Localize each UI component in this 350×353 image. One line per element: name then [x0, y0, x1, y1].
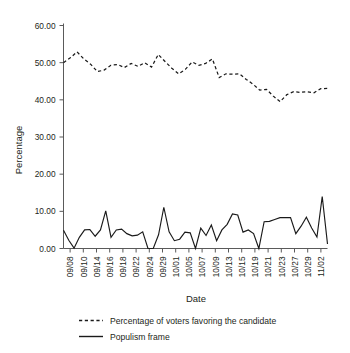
x-tick-label: 10/01 [171, 256, 181, 277]
series-line-percentage-of-voters [64, 52, 328, 102]
chart-legend: Percentage of voters favoring the candid… [79, 316, 276, 342]
x-tick-label: 10/05 [184, 256, 194, 277]
y-tick-label: 0.00 [39, 244, 56, 254]
line-chart: 0.0010.0020.0030.0040.0050.0060.00 09/08… [0, 0, 350, 353]
x-tick-label: 10/21 [263, 256, 273, 277]
x-tick-label: 11/02 [316, 256, 326, 277]
x-tick-label: 09/24 [145, 256, 155, 277]
x-tick-label: 10/23 [277, 256, 287, 277]
x-tick-label: 10/15 [237, 256, 247, 277]
y-tick-label: 20.00 [35, 169, 56, 179]
legend-label-populism-frame: Populism frame [110, 332, 170, 342]
y-axis-tick-labels: 0.0010.0020.0030.0040.0050.0060.00 [35, 21, 56, 254]
x-tick-label: 09/10 [79, 256, 89, 277]
x-axis-title: Date [186, 293, 206, 304]
chart-figure: 0.0010.0020.0030.0040.0050.0060.00 09/08… [0, 0, 350, 353]
y-tick-label: 10.00 [35, 206, 56, 216]
x-tick-label: 09/08 [65, 256, 75, 277]
y-tick-label: 50.00 [35, 58, 56, 68]
y-tick-label: 30.00 [35, 132, 56, 142]
x-tick-label: 09/14 [92, 256, 102, 277]
y-axis-tickmarks [60, 26, 64, 249]
x-axis-tick-labels: 09/0809/1009/1409/1609/1809/2209/2409/29… [65, 256, 326, 277]
x-tick-label: 10/19 [250, 256, 260, 277]
x-tick-label: 09/18 [118, 256, 128, 277]
x-tick-label: 10/09 [211, 256, 221, 277]
x-tick-label: 09/22 [131, 256, 141, 277]
x-tick-label: 09/16 [105, 256, 115, 277]
x-tick-label: 10/27 [290, 256, 300, 277]
y-axis-title: Percentage [13, 126, 24, 175]
y-tick-label: 40.00 [35, 95, 56, 105]
series-line-populism-frame [64, 196, 328, 248]
legend-label-percentage-of-voters: Percentage of voters favoring the candid… [110, 316, 276, 326]
y-tick-label: 60.00 [35, 21, 56, 31]
x-tick-label: 10/29 [303, 256, 313, 277]
x-tick-label: 10/13 [224, 256, 234, 277]
x-tick-label: 09/29 [158, 256, 168, 277]
x-tick-label: 10/07 [197, 256, 207, 277]
